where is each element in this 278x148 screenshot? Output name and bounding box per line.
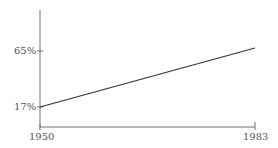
- y-label-17: 17%: [14, 102, 36, 112]
- x-label-1983: 1983: [243, 132, 268, 142]
- data-line: [40, 48, 255, 107]
- y-label-65: 65%: [14, 46, 36, 56]
- line-chart: [0, 0, 278, 148]
- x-label-1950: 1950: [29, 132, 54, 142]
